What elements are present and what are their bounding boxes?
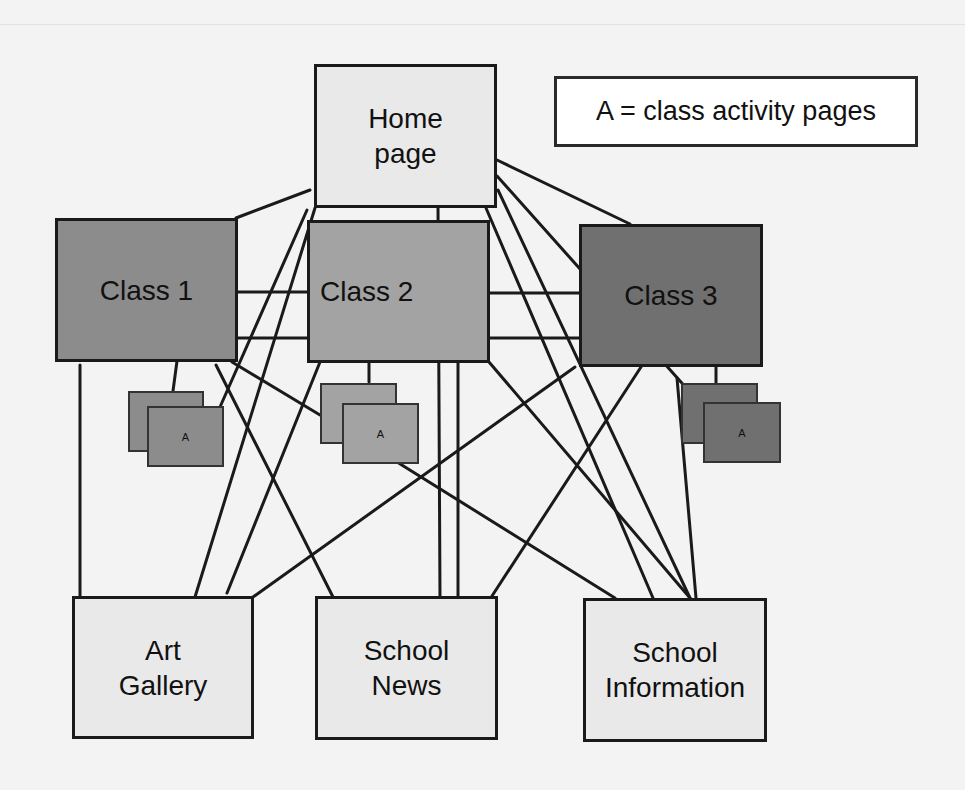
node-label: Class 2 — [320, 274, 413, 309]
node-class-2: Class 2 — [307, 220, 490, 363]
node-home-page: Home page — [314, 64, 497, 208]
node-label: Class 3 — [624, 278, 717, 313]
node-label: School Information — [605, 635, 745, 705]
activity-page: A — [342, 403, 419, 464]
activity-page: A — [147, 406, 224, 467]
legend-box: A = class activity pages — [554, 76, 918, 147]
activity-label: A — [344, 428, 417, 440]
activity-label: A — [149, 431, 222, 443]
node-school-information: School Information — [583, 598, 767, 742]
node-class-3: Class 3 — [579, 224, 763, 367]
node-label: School News — [364, 633, 450, 703]
activity-label: A — [705, 427, 779, 439]
node-art-gallery: Art Gallery — [72, 596, 254, 739]
node-class-1: Class 1 — [55, 218, 238, 362]
activity-page: A — [703, 402, 781, 463]
node-label: Class 1 — [100, 273, 193, 308]
node-school-news: School News — [315, 596, 498, 740]
node-label: Home page — [368, 101, 443, 171]
node-label: Art Gallery — [119, 633, 208, 703]
legend-text: A = class activity pages — [596, 96, 876, 127]
